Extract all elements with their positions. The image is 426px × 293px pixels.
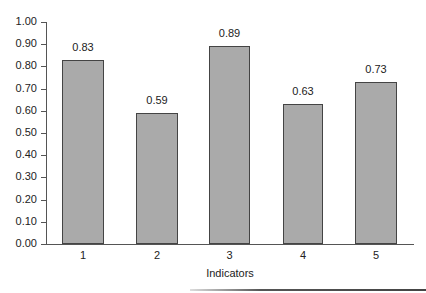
bar-chart: 0.000.100.200.300.400.500.600.700.800.90… <box>0 0 426 293</box>
y-tick-label: 0.50 <box>1 126 37 138</box>
x-tick-label: 4 <box>293 249 313 261</box>
y-tick-label: 0.70 <box>1 82 37 94</box>
bar-5 <box>355 82 397 244</box>
bar-3 <box>209 46 250 244</box>
y-tick-mark <box>41 200 46 201</box>
y-tick-label: 0.10 <box>1 215 37 227</box>
bar-4 <box>283 104 323 244</box>
y-tick-mark <box>41 22 46 23</box>
x-tick-label: 2 <box>147 249 167 261</box>
x-tick-label: 5 <box>366 249 386 261</box>
y-tick-label: 0.30 <box>1 170 37 182</box>
x-tick-label: 3 <box>220 249 240 261</box>
y-tick-label: 0.60 <box>1 104 37 116</box>
bar-value-label: 0.63 <box>278 85 328 97</box>
x-tick-label: 1 <box>73 249 93 261</box>
y-tick-mark <box>41 89 46 90</box>
y-tick-mark <box>41 133 46 134</box>
y-tick-mark <box>41 111 46 112</box>
y-tick-label: 1.00 <box>1 15 37 27</box>
x-axis <box>46 244 414 245</box>
y-tick-mark <box>41 244 46 245</box>
y-tick-label: 0.20 <box>1 193 37 205</box>
bar-value-label: 0.73 <box>351 63 401 75</box>
y-tick-label: 0.80 <box>1 59 37 71</box>
bar-value-label: 0.59 <box>132 94 182 106</box>
y-axis <box>46 22 47 244</box>
y-tick-mark <box>41 44 46 45</box>
y-tick-label: 0.90 <box>1 37 37 49</box>
y-tick-mark <box>41 222 46 223</box>
bottom-rule <box>190 289 426 291</box>
y-tick-mark <box>41 177 46 178</box>
bar-value-label: 0.83 <box>58 41 108 53</box>
bar-1 <box>62 60 104 244</box>
x-axis-title: Indicators <box>190 267 270 279</box>
bar-2 <box>136 113 178 244</box>
y-tick-mark <box>41 155 46 156</box>
y-tick-label: 0.00 <box>1 237 37 249</box>
y-tick-mark <box>41 66 46 67</box>
bar-value-label: 0.89 <box>205 27 255 39</box>
y-tick-label: 0.40 <box>1 148 37 160</box>
